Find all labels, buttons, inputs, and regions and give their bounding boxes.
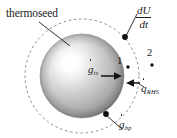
q-rhs-arrow — [126, 79, 140, 87]
overdot-accent-icon — [121, 114, 123, 116]
dudt-rate-label: dU dt — [136, 5, 151, 30]
point-1-marker — [126, 65, 129, 68]
point-2-label: 2 — [147, 48, 152, 59]
point-1-label: 1 — [117, 56, 122, 67]
thermoseed-label: thermoseed — [6, 8, 58, 20]
g-ts-subscript: ts — [94, 69, 99, 76]
q-rhs-subscript: RHS — [147, 88, 160, 95]
dudt-numerator: dU — [136, 5, 151, 18]
g-bp-base: g — [119, 119, 125, 130]
dudt-boundary-dot — [122, 34, 128, 40]
g-ts-label: gts — [88, 64, 98, 75]
overdot-accent-icon — [90, 59, 92, 61]
overdot-accent-icon — [143, 78, 145, 80]
q-rhs-label: qRHS — [141, 83, 159, 94]
g-ts-base: g — [88, 64, 94, 75]
point-2-marker — [150, 63, 153, 66]
g-bp-boundary-dot — [103, 111, 109, 117]
dudt-denominator: dt — [136, 18, 151, 30]
g-bp-label: gbp — [119, 119, 131, 130]
thermoseed-energy-balance-figure: thermoseed dU dt gts qRHS gbp 1 2 — [0, 0, 177, 138]
g-bp-subscript: bp — [125, 124, 132, 131]
q-rhs-base: q — [141, 83, 147, 94]
